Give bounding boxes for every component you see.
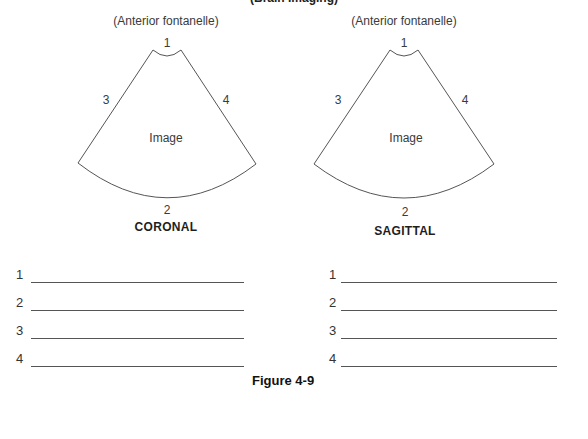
answer-number: 3 bbox=[329, 323, 336, 338]
image-label: Image bbox=[389, 131, 422, 145]
view-label: SAGITTAL bbox=[374, 224, 436, 238]
answer-blank[interactable] bbox=[341, 282, 557, 283]
answer-row[interactable]: 1 bbox=[16, 267, 246, 283]
answer-blank[interactable] bbox=[31, 282, 244, 283]
answer-number: 1 bbox=[329, 267, 336, 282]
answer-blank[interactable] bbox=[31, 338, 244, 339]
answer-number: 4 bbox=[16, 351, 23, 366]
answer-number: 4 bbox=[329, 351, 336, 366]
answer-blank[interactable] bbox=[31, 310, 244, 311]
marker-2: 2 bbox=[402, 205, 409, 219]
answer-blank[interactable] bbox=[31, 366, 244, 367]
answer-row[interactable]: 4 bbox=[16, 351, 246, 367]
answer-row[interactable]: 2 bbox=[329, 295, 559, 311]
answer-number: 2 bbox=[16, 295, 23, 310]
answer-row[interactable]: 3 bbox=[16, 323, 246, 339]
marker-4: 4 bbox=[462, 93, 469, 107]
answer-number: 1 bbox=[16, 267, 23, 282]
sector-outline bbox=[0, 0, 588, 260]
answer-row[interactable]: 3 bbox=[329, 323, 559, 339]
marker-1: 1 bbox=[401, 36, 408, 50]
figure-caption: Figure 4-9 bbox=[252, 373, 314, 388]
marker-3: 3 bbox=[335, 93, 342, 107]
answer-row[interactable]: 2 bbox=[16, 295, 246, 311]
answer-blank[interactable] bbox=[341, 310, 557, 311]
answer-blank[interactable] bbox=[341, 338, 557, 339]
answer-row[interactable]: 1 bbox=[329, 267, 559, 283]
answer-number: 2 bbox=[329, 295, 336, 310]
answer-number: 3 bbox=[16, 323, 23, 338]
answer-blank[interactable] bbox=[341, 366, 557, 367]
answer-row[interactable]: 4 bbox=[329, 351, 559, 367]
